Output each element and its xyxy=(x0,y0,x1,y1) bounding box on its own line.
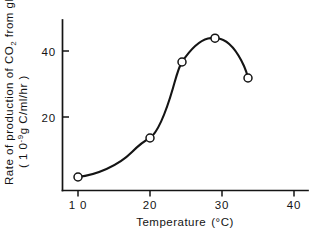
y-axis-units-exponent: -9 xyxy=(16,134,25,142)
y-axis-units-rest: g C/ml/hr ) xyxy=(17,75,29,134)
y-axis-title-part1: Rate of production of CO xyxy=(3,46,15,185)
chart-figure: 40 20 1 0 20 30 40 Temperature(°C) Rate … xyxy=(0,0,315,232)
data-point-34c xyxy=(244,74,252,82)
x-tick-label-20: 20 xyxy=(143,199,157,211)
data-markers-group xyxy=(74,34,252,181)
x-tick-label-40: 40 xyxy=(287,199,301,211)
x-tick-labels: 1 0 20 30 40 xyxy=(69,199,301,211)
y-axis-title-line1: Rate of production of CO2 from glucose xyxy=(3,0,18,185)
y-tick-label-40: 40 xyxy=(42,46,56,58)
data-point-29-5c xyxy=(211,34,219,42)
x-axis-title-units: (°C) xyxy=(211,216,234,228)
y-axis-title-line2: ( 1 0-9g C/ml/hr ) xyxy=(16,75,29,168)
y-tick-marks xyxy=(63,51,70,117)
x-axis-title: Temperature(°C) xyxy=(136,216,234,228)
y-axis-title-group: Rate of production of CO2 from glucose (… xyxy=(3,0,29,185)
x-axis-title-main: Temperature xyxy=(136,216,206,228)
data-point-24-5c xyxy=(178,58,186,66)
x-tick-label-30: 30 xyxy=(215,199,229,211)
x-axis-title-group: Temperature(°C) xyxy=(136,216,234,228)
co2-production-curve xyxy=(78,38,248,177)
data-series-group xyxy=(78,38,248,177)
x-tick-label-10: 1 0 xyxy=(69,199,87,211)
y-axis-title-part2: from glucose xyxy=(3,0,15,41)
y-tick-label-20: 20 xyxy=(42,112,56,124)
line-chart-plot: 40 20 1 0 20 30 40 Temperature(°C) Rate … xyxy=(0,0,315,232)
data-point-20c xyxy=(146,134,154,142)
y-axis-units-open: ( 1 0 xyxy=(17,142,29,168)
x-tick-marks xyxy=(78,191,294,197)
y-tick-labels: 40 20 xyxy=(42,46,56,124)
axes-group xyxy=(63,20,309,191)
data-point-10c xyxy=(74,173,82,181)
